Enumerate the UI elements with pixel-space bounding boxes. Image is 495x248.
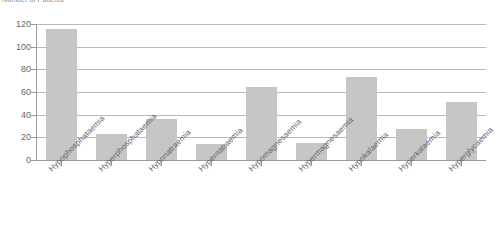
x-axis-labels: HypophosphataemiaHyperphosphataemiaHypon… — [36, 167, 491, 248]
y-axis-tick-label: 20 — [21, 132, 31, 142]
y-axis-tick-label: 40 — [21, 110, 31, 120]
y-axis-tick-label: 120 — [16, 19, 31, 29]
y-axis-tick-label: 80 — [21, 64, 31, 74]
plot-area: 020406080100120 — [36, 24, 486, 160]
y-axis-tick-label: 60 — [21, 87, 31, 97]
y-axis-title: Number of Patients — [2, 0, 64, 3]
y-axis-tick-label: 100 — [16, 42, 31, 52]
bars-layer — [36, 24, 486, 160]
